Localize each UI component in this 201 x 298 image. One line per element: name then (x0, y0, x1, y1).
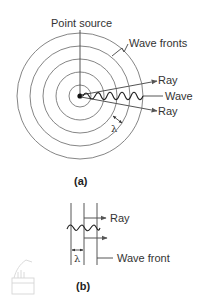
label-ray-lower: Ray (158, 105, 178, 117)
faint-corner-icon (12, 260, 34, 294)
panel-a: Point source Wave fronts Ray Wave Ray λ … (17, 17, 193, 187)
label-wave-front-b: Wave front (117, 252, 170, 264)
wavelength-arrow-a (113, 116, 122, 123)
point-source-dot (77, 93, 82, 98)
label-wavelength-a: λ (111, 123, 118, 134)
label-point-source: Point source (51, 17, 112, 29)
label-ray-upper: Ray (158, 74, 178, 86)
caption-a: (a) (74, 175, 88, 187)
caption-b: (b) (76, 280, 90, 292)
panel-b: Ray λ Wave front (b) (67, 203, 170, 292)
wave-fronts-leader (112, 44, 128, 56)
label-ray-b: Ray (110, 212, 130, 224)
label-wave-fronts: Wave fronts (129, 37, 188, 49)
ray-upper-arrow (81, 81, 157, 95)
label-wave: Wave (165, 90, 193, 102)
wave-sinusoid-b (67, 225, 100, 231)
label-wavelength-b: λ (74, 253, 81, 264)
wave-ray-diagram: Point source Wave fronts Ray Wave Ray λ … (0, 0, 201, 298)
